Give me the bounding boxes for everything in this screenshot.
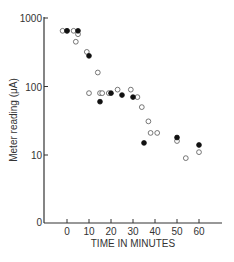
y-tick-label: 1000 xyxy=(20,13,43,24)
x-tick-label: 50 xyxy=(171,226,183,237)
open-data-point xyxy=(115,87,120,92)
filled-data-point xyxy=(142,141,147,146)
open-data-point xyxy=(128,87,133,92)
filled-data-point xyxy=(98,99,103,104)
open-data-point xyxy=(197,150,202,155)
open-data-point xyxy=(146,119,151,124)
filled-data-point xyxy=(131,95,136,100)
x-tick-label: 20 xyxy=(105,226,117,237)
x-tick-label: 0 xyxy=(64,226,70,237)
x-tick-label: 40 xyxy=(149,226,161,237)
chart: 0101001000 0102030405060 TIME IN MINUTES… xyxy=(0,0,234,262)
x-axis-title: TIME IN MINUTES xyxy=(91,238,176,249)
filled-data-point xyxy=(175,135,180,140)
x-tick-label: 10 xyxy=(83,226,95,237)
filled-data-point xyxy=(76,28,81,33)
filled-data-point xyxy=(197,143,202,148)
open-data-point xyxy=(155,131,160,136)
x-tick-label: 60 xyxy=(193,226,205,237)
axes xyxy=(44,17,222,223)
y-tick-label: 0 xyxy=(36,217,42,228)
open-data-point xyxy=(139,105,144,110)
open-data-point xyxy=(95,70,100,75)
open-data-point xyxy=(100,91,105,96)
data-points xyxy=(60,28,201,160)
y-tick-label: 100 xyxy=(25,82,42,93)
open-data-point xyxy=(73,39,78,44)
x-ticks: 0102030405060 xyxy=(64,219,205,237)
open-data-point xyxy=(183,156,188,161)
open-data-point xyxy=(87,91,92,96)
filled-data-point xyxy=(120,93,125,98)
open-data-point xyxy=(148,131,153,136)
y-axis-title: Meter reading (μA) xyxy=(8,78,19,162)
filled-data-point xyxy=(87,53,92,58)
x-tick-label: 30 xyxy=(127,226,139,237)
y-tick-label: 10 xyxy=(31,150,43,161)
filled-data-point xyxy=(109,91,114,96)
filled-data-point xyxy=(65,28,70,33)
